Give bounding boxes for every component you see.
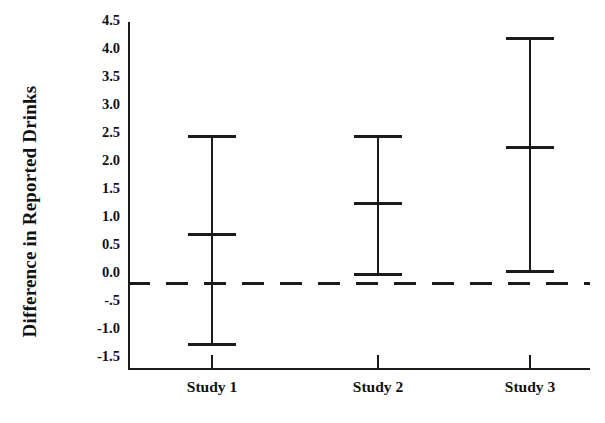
error-bar-lower-cap bbox=[188, 343, 236, 346]
error-bar-upper-cap bbox=[354, 135, 402, 138]
error-bar-stem bbox=[529, 37, 531, 272]
y-axis-tick-label: 0.0 bbox=[74, 265, 120, 280]
y-axis-title: Difference in Reported Drinks bbox=[0, 0, 60, 423]
error-bar-lower-cap bbox=[354, 273, 402, 276]
x-axis-line bbox=[128, 368, 590, 370]
y-axis-tick-label: -.5 bbox=[74, 293, 120, 308]
chart-figure: Difference in Reported Drinks 4.54.03.53… bbox=[0, 0, 605, 423]
error-bar-mean-marker bbox=[188, 233, 236, 236]
x-axis-tick-label: Study 2 bbox=[318, 378, 438, 396]
x-axis-tick bbox=[529, 355, 531, 369]
y-axis-tick-label: 1.0 bbox=[74, 209, 120, 224]
x-axis-tick-label: Study 3 bbox=[470, 378, 590, 396]
x-axis-tick-label: Study 1 bbox=[152, 378, 272, 396]
y-axis-tick-label: 0.5 bbox=[74, 237, 120, 252]
y-axis-tick-label: -1.5 bbox=[74, 349, 120, 364]
y-axis-tick-label: 2.0 bbox=[74, 153, 120, 168]
y-axis-tick-label: 3.5 bbox=[74, 69, 120, 84]
x-axis-tick bbox=[377, 355, 379, 369]
error-bar-upper-cap bbox=[506, 37, 554, 40]
y-axis-tick-labels: 4.54.03.53.02.52.01.51.00.50.0-.5-1.0-1.… bbox=[72, 0, 120, 423]
y-axis-tick-label: 2.5 bbox=[74, 125, 120, 140]
error-bar-lower-cap bbox=[506, 270, 554, 273]
y-axis-tick-label: 1.5 bbox=[74, 181, 120, 196]
y-axis-line bbox=[128, 22, 130, 370]
error-bar-mean-marker bbox=[506, 146, 554, 149]
y-axis-tick-label: 3.0 bbox=[74, 97, 120, 112]
x-axis-tick bbox=[211, 355, 213, 369]
error-bar-upper-cap bbox=[188, 135, 236, 138]
y-axis-tick-label: 4.5 bbox=[74, 13, 120, 28]
zero-reference-line bbox=[128, 282, 590, 285]
y-axis-tick-label: 4.0 bbox=[74, 41, 120, 56]
error-bar-mean-marker bbox=[354, 202, 402, 205]
error-bar-stem bbox=[211, 135, 213, 345]
y-axis-tick-label: -1.0 bbox=[74, 321, 120, 336]
